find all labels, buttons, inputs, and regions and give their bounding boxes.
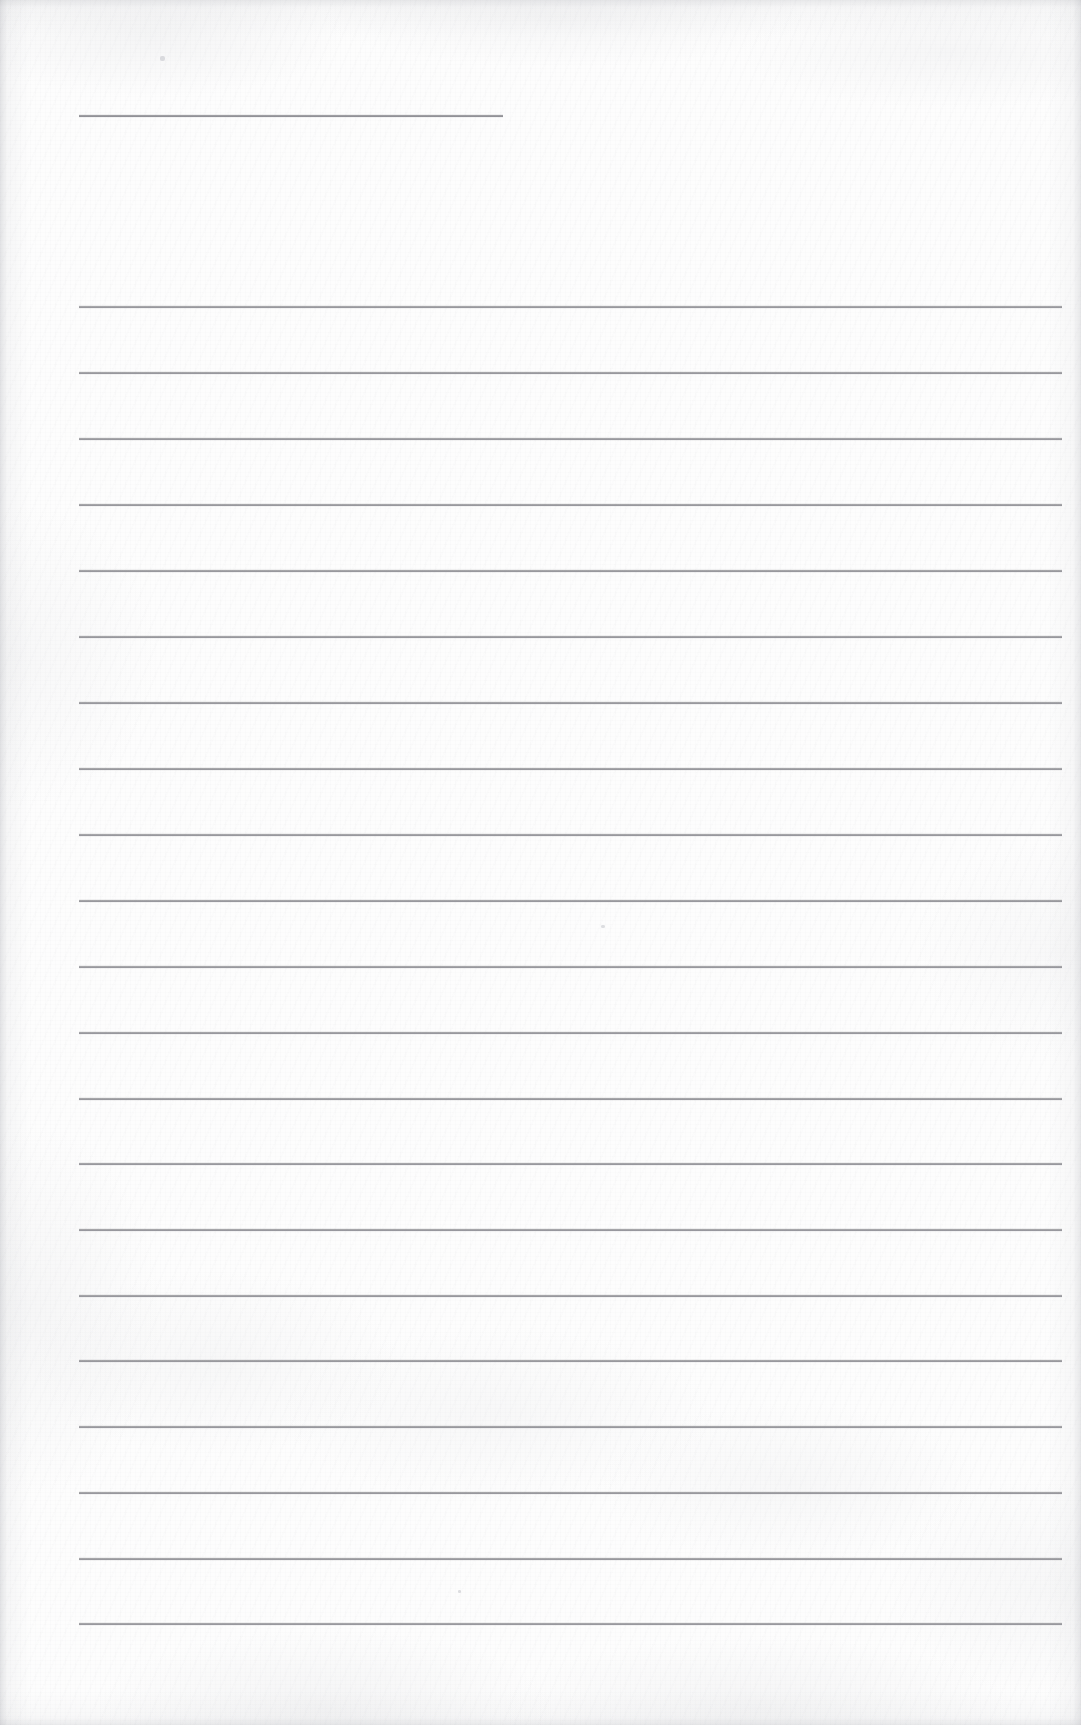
- scan-speck: [458, 1590, 461, 1593]
- ruled-line: [79, 834, 1062, 836]
- ruled-line: [79, 1295, 1062, 1297]
- ruled-line: [79, 570, 1062, 572]
- ruled-line: [79, 768, 1062, 770]
- ruled-line: [79, 504, 1062, 506]
- scan-speck: [601, 925, 605, 928]
- title-rule: [79, 115, 503, 117]
- ruled-line: [79, 1492, 1062, 1494]
- ruled-line: [79, 1098, 1062, 1100]
- scan-speck: [160, 56, 165, 61]
- ruled-line: [79, 1426, 1062, 1428]
- ruled-line: [79, 636, 1062, 638]
- ruled-line: [79, 1229, 1062, 1231]
- ruled-line: [79, 702, 1062, 704]
- ruled-line: [79, 438, 1062, 440]
- ruled-line: [79, 306, 1062, 308]
- paper-background: [0, 0, 1081, 1725]
- ruled-line: [79, 966, 1062, 968]
- ruled-line: [79, 1163, 1062, 1165]
- ruled-line: [79, 1032, 1062, 1034]
- ruled-line: [79, 900, 1062, 902]
- ruled-line: [79, 1623, 1062, 1625]
- ruled-line: [79, 1558, 1062, 1560]
- ruled-line: [79, 372, 1062, 374]
- ruled-line: [79, 1360, 1062, 1362]
- scanned-page: [0, 0, 1081, 1725]
